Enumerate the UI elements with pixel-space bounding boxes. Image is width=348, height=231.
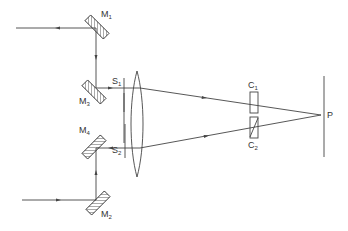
label-m4: M4: [79, 125, 91, 136]
label-s1: S1: [112, 76, 122, 87]
label-p: P: [327, 110, 333, 120]
label-s2: S2: [112, 145, 122, 156]
arrow-icon: [56, 199, 61, 202]
label-c2: C2: [248, 140, 259, 151]
arrow-icon: [204, 135, 209, 138]
label-m1: M1: [101, 9, 113, 20]
label-c1: C1: [248, 80, 259, 91]
ray-lower: [140, 115, 321, 148]
cell-c1: [250, 92, 258, 113]
optical-diagram: M1 M3 M4 M2 S1 S2 C1 C2 P: [0, 0, 348, 231]
label-m3: M3: [79, 96, 91, 107]
arrow-icon: [95, 55, 98, 60]
mirror-m4: [82, 135, 106, 159]
arrow-icon: [55, 27, 60, 30]
lens: [131, 71, 143, 177]
arrow-icon: [108, 87, 113, 90]
ray-upper: [140, 88, 321, 115]
label-m2: M2: [101, 209, 113, 220]
arrow-icon: [95, 170, 98, 175]
